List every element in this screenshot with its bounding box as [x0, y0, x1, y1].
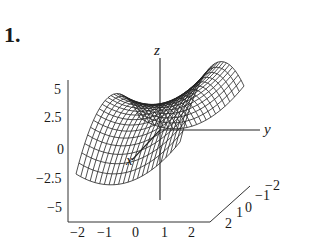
x-tick: −1	[97, 225, 112, 241]
z-tick: −5	[47, 200, 62, 216]
y-tick: 0	[245, 200, 252, 216]
x-tick: 1	[161, 225, 168, 241]
x-tick: −2	[70, 225, 85, 241]
x-tick: 0	[132, 225, 139, 241]
x-axis-label: x	[126, 152, 133, 169]
z-tick: −2.5	[36, 171, 61, 187]
y-tick: −2	[265, 178, 280, 194]
z-tick: 2.5	[44, 110, 62, 126]
y-axis-label: y	[264, 121, 271, 138]
z-tick: 0	[57, 142, 64, 158]
z-tick: 5	[54, 82, 61, 98]
y-tick: 2	[225, 216, 232, 232]
z-axis-label: z	[154, 42, 160, 59]
x-tick: 2	[188, 225, 195, 241]
y-tick: 1	[236, 205, 243, 221]
